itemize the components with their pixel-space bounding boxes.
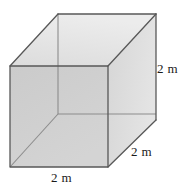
depth-label: 2 m bbox=[131, 145, 152, 158]
width-label: 2 m bbox=[51, 171, 72, 184]
cube-figure: 2 m 2 m 2 m bbox=[0, 0, 188, 189]
height-label: 2 m bbox=[157, 62, 178, 75]
front-face bbox=[10, 66, 108, 167]
cube-drawing bbox=[0, 0, 188, 189]
